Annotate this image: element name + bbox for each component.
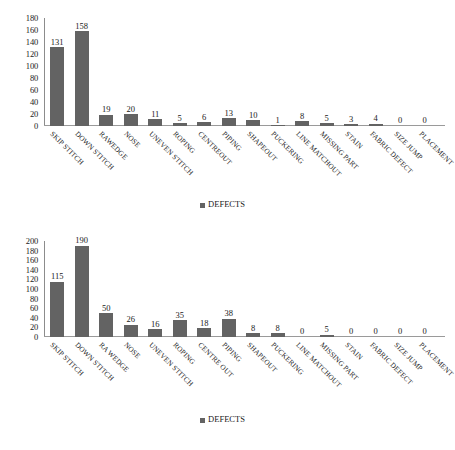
bar-value-label: 158 <box>75 22 88 31</box>
bar-value-label: 50 <box>102 304 111 313</box>
x-label-slot: SKIP STITCH <box>44 128 69 190</box>
bar-group-bottom: 11519050261635183888050000 <box>45 241 437 337</box>
bar: 5 <box>173 123 187 126</box>
x-label-slot: PLACEMENT <box>412 128 437 190</box>
bar: 26 <box>124 325 138 337</box>
y-axis-tick-label: 120 <box>26 50 38 59</box>
bar-slot: 26 <box>119 241 144 337</box>
bar-slot: 0 <box>364 241 389 337</box>
bar-value-label: 8 <box>300 112 304 121</box>
bar: 19 <box>99 115 113 126</box>
bar: 4 <box>369 124 383 126</box>
y-axis-tick-label: 100 <box>26 285 38 294</box>
bar-slot: 18 <box>192 241 217 337</box>
bar-value-label: 35 <box>175 311 184 320</box>
y-axis-tick-label: 100 <box>26 62 38 71</box>
bar-slot: 1 <box>266 18 291 126</box>
bar-slot: 131 <box>45 18 70 126</box>
bar-value-label: 19 <box>102 105 111 114</box>
x-label-slot: SHAPEOUT <box>241 339 266 401</box>
bar-slot: 5 <box>168 18 193 126</box>
bar-slot: 20 <box>119 18 144 126</box>
bar-slot: 4 <box>364 18 389 126</box>
page-caption <box>8 439 437 448</box>
x-label-slot: RA WEDGE <box>93 339 118 401</box>
bar-value-label: 6 <box>202 113 206 122</box>
x-label-slot: FABRIC DEFECT <box>363 128 388 190</box>
x-label-slot: RAWEDGE <box>93 128 118 190</box>
x-label-slot: LINE MATCHOUT <box>290 339 315 401</box>
bar-slot: 115 <box>45 241 70 337</box>
bar-slot: 8 <box>266 241 291 337</box>
bar: 115 <box>50 282 64 337</box>
bar-value-label: 5 <box>325 114 329 123</box>
x-label-slot: ROPING <box>167 339 192 401</box>
bar-value-label: 10 <box>249 111 258 120</box>
bar: 131 <box>50 47 64 126</box>
x-label-slot: SIZE JUMP <box>388 128 413 190</box>
bar-slot: 0 <box>388 18 413 126</box>
y-axis-tick-label: 0 <box>34 333 38 342</box>
bar-value-label: 8 <box>251 324 255 333</box>
x-label-slot: DOWN STITCH <box>69 339 94 401</box>
bar-slot: 16 <box>143 241 168 337</box>
bar-slot: 158 <box>70 18 95 126</box>
bar: 10 <box>246 120 260 126</box>
x-label-slot: STAIN <box>339 339 364 401</box>
y-axis-tick-label: 80 <box>30 294 38 303</box>
x-label-slot: PUCKERING <box>265 339 290 401</box>
bar-value-label: 0 <box>423 327 427 336</box>
x-label-slot: SKIP STITCH <box>44 339 69 401</box>
y-axis-tick-label: 180 <box>26 246 38 255</box>
bar-value-label: 18 <box>200 319 209 328</box>
bar-slot: 0 <box>413 18 438 126</box>
x-axis-category-labels-top: SKIP STITCHDOWN STITCHRAWEDGENOSEUNEVEN … <box>44 128 437 190</box>
y-axis-tick-label: 20 <box>30 110 38 119</box>
bar-slot: 0 <box>290 241 315 337</box>
y-axis-tick-label: 80 <box>30 74 38 83</box>
x-label-slot: CENTREOUT <box>191 128 216 190</box>
bar: 8 <box>295 121 309 126</box>
x-label-slot: UNEVEN STITCH <box>142 128 167 190</box>
y-axis-tick-label: 120 <box>26 275 38 284</box>
bar-slot: 8 <box>290 18 315 126</box>
bar-value-label: 38 <box>224 309 233 318</box>
x-label-slot: LINE MATCHOUT <box>290 128 315 190</box>
bar: 8 <box>271 333 285 337</box>
bar-value-label: 115 <box>51 272 63 281</box>
x-label-slot: PLACEMENT <box>412 339 437 401</box>
y-axis-tick-label: 160 <box>26 26 38 35</box>
bar: 11 <box>148 119 162 126</box>
x-label-slot: NOSE <box>118 339 143 401</box>
bar-slot: 190 <box>70 241 95 337</box>
x-label-slot: MISSING PART <box>314 339 339 401</box>
bar: 50 <box>99 313 113 337</box>
plot-area-bottom: 11519050261635183888050000 <box>44 241 437 337</box>
x-axis-tick-label: PLACEMENT <box>418 130 455 167</box>
x-label-slot: MISSING PART <box>314 128 339 190</box>
bar: 13 <box>222 118 236 126</box>
bar: 35 <box>173 320 187 337</box>
y-axis-tick-label: 60 <box>30 86 38 95</box>
bar: 16 <box>148 329 162 337</box>
x-label-slot: PIPING <box>216 128 241 190</box>
y-axis-tick-label: 60 <box>30 304 38 313</box>
bar-value-label: 0 <box>374 327 378 336</box>
bar-slot: 0 <box>413 241 438 337</box>
x-label-slot: NOSE <box>118 128 143 190</box>
y-axis-tick-label: 140 <box>26 38 38 47</box>
x-axis-tick-label: PLACEMENT <box>418 341 455 378</box>
bar: 5 <box>320 335 334 337</box>
x-label-slot: ROPING <box>167 128 192 190</box>
bar: 38 <box>222 319 236 337</box>
bar: 20 <box>124 114 138 126</box>
y-axis-tick-label: 140 <box>26 266 38 275</box>
bar-slot: 5 <box>315 241 340 337</box>
bar-slot: 0 <box>388 241 413 337</box>
bar: 190 <box>75 246 89 337</box>
legend-bottom: DEFECTS <box>0 415 445 424</box>
bar-value-label: 0 <box>300 327 304 336</box>
bar: 3 <box>344 124 358 126</box>
x-axis-tick-label: STAIN <box>344 130 364 150</box>
bar-group-top: 1311581920115613101853400 <box>45 18 437 126</box>
